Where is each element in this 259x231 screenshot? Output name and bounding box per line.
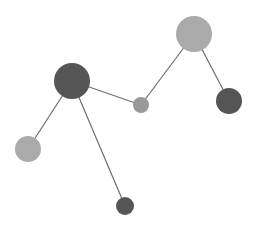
- graph-node: [15, 136, 41, 162]
- graph-node: [176, 16, 212, 52]
- graph-node: [216, 88, 242, 114]
- graph-edges: [28, 34, 229, 206]
- graph-node: [116, 197, 134, 215]
- graph-node: [54, 63, 90, 99]
- graph-edge: [72, 81, 125, 206]
- graph-node: [133, 97, 149, 113]
- network-graph: [0, 0, 259, 231]
